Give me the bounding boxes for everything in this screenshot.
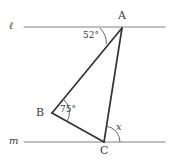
- side-AB: [52, 28, 122, 113]
- line-label-ell: ℓ: [9, 21, 13, 31]
- side-BC: [52, 113, 104, 142]
- vertex-label-C: C: [100, 145, 108, 156]
- angle-label-at-B: 75°: [60, 105, 76, 114]
- angle-label-at-C: x: [116, 122, 122, 132]
- line-label-m: m: [9, 136, 18, 146]
- geometry-figure: ℓ m A B C 52° 75° x: [0, 0, 171, 164]
- angle-arc-at-A: [100, 28, 106, 44]
- figure-canvas: [0, 0, 171, 164]
- vertex-label-A: A: [118, 10, 126, 21]
- vertex-label-B: B: [36, 107, 44, 118]
- angle-label-at-A: 52°: [83, 31, 99, 40]
